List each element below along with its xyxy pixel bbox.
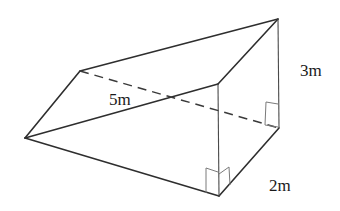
right-angle-marker-front-left — [206, 168, 218, 193]
depth-label: 2m — [269, 177, 291, 194]
front-vertical-edge — [218, 84, 219, 196]
left-slant-edge — [25, 71, 80, 138]
front-top-edge — [218, 19, 278, 84]
slant-label: 5m — [109, 91, 131, 108]
right-angle-marker-back — [265, 102, 278, 127]
right-angle-marker-front-right — [219, 167, 230, 185]
top-ridge-edge — [80, 19, 278, 71]
height-label: 3m — [300, 62, 322, 79]
back-vertical-edge — [278, 19, 279, 128]
bottom-left-edge — [25, 138, 219, 196]
